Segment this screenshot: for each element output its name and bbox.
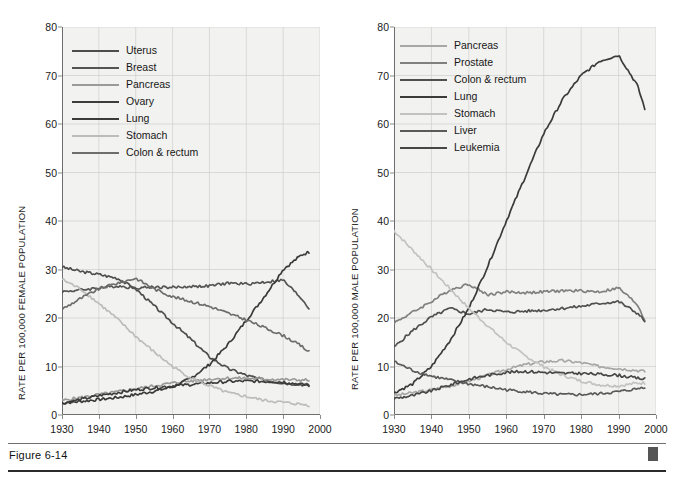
figure-caption-label: Figure 6-14 xyxy=(9,449,67,461)
y-tick-mark xyxy=(390,27,394,28)
legend-label-breast: Breast xyxy=(126,62,156,73)
y-axis-title-female: RATE PER 100,000 FEMALE POPULATION xyxy=(16,206,27,400)
legend-swatch-lung xyxy=(400,96,447,98)
legend-swatch-ovary xyxy=(72,101,119,103)
y-tick-mark xyxy=(58,221,62,222)
legend-swatch-stomach xyxy=(72,135,119,137)
legend-swatch-breast xyxy=(72,67,119,69)
legend-swatch-leukemia xyxy=(400,147,447,149)
legend-item-breast[interactable]: Breast xyxy=(72,59,198,76)
y-tick-label: 50 xyxy=(377,167,389,178)
x-tick-label: 1930 xyxy=(382,424,405,435)
y-tick-label: 0 xyxy=(383,410,389,421)
y-tick-mark xyxy=(58,75,62,76)
legend-item-lung[interactable]: Lung xyxy=(72,110,198,127)
legend-item-prostate[interactable]: Prostate xyxy=(400,54,526,71)
y-tick-label: 20 xyxy=(45,313,57,324)
x-tick-mark xyxy=(394,415,395,419)
x-tick-mark xyxy=(469,415,470,419)
legend-item-lung[interactable]: Lung xyxy=(400,88,526,105)
legend-female: UterusBreastPancreasOvaryLungStomachColo… xyxy=(72,42,198,161)
x-tick-mark xyxy=(431,415,432,419)
legend-label-stomach: Stomach xyxy=(126,130,167,141)
y-axis-title-male: RATE PER 100,000 MALE POPULATION xyxy=(349,208,360,390)
legend-swatch-prostate xyxy=(400,62,447,64)
y-tick-label: 0 xyxy=(51,410,57,421)
y-tick-mark xyxy=(58,172,62,173)
y-tick-label: 20 xyxy=(377,313,389,324)
x-tick-mark xyxy=(506,415,507,419)
y-tick-mark xyxy=(390,172,394,173)
legend-label-ovary: Ovary xyxy=(126,96,154,107)
legend-item-leukemia[interactable]: Leukemia xyxy=(400,139,526,156)
x-tick-label: 1940 xyxy=(420,424,443,435)
legend-swatch-colon-rectum xyxy=(72,152,119,154)
x-tick-label: 1950 xyxy=(457,424,480,435)
y-tick-mark xyxy=(390,366,394,367)
legend-label-lung: Lung xyxy=(126,113,149,124)
x-tick-label: 1990 xyxy=(271,424,294,435)
x-tick-label: 1970 xyxy=(198,424,221,435)
y-tick-label: 10 xyxy=(45,361,57,372)
caption-rule-bottom xyxy=(8,470,666,472)
y-tick-label: 30 xyxy=(45,264,57,275)
x-tick-label: 1960 xyxy=(495,424,518,435)
y-tick-mark xyxy=(390,124,394,125)
legend-label-colon-rectum: Colon & rectum xyxy=(126,147,198,158)
x-tick-mark xyxy=(62,415,63,419)
legend-item-pancreas[interactable]: Pancreas xyxy=(72,76,198,93)
legend-male: PancreasProstateColon & rectumLungStomac… xyxy=(400,37,526,156)
x-tick-label: 1970 xyxy=(532,424,555,435)
legend-swatch-stomach xyxy=(400,113,447,115)
y-tick-label: 10 xyxy=(377,361,389,372)
x-tick-mark xyxy=(581,415,582,419)
legend-label-lung: Lung xyxy=(454,91,477,102)
chart-panel-male: RATE PER 100,000 MALE POPULATION 0102030… xyxy=(337,0,674,440)
legend-label-stomach: Stomach xyxy=(454,108,495,119)
legend-item-liver[interactable]: Liver xyxy=(400,122,526,139)
y-tick-label: 50 xyxy=(45,167,57,178)
y-tick-label: 80 xyxy=(45,22,57,33)
x-tick-label: 1980 xyxy=(569,424,592,435)
x-tick-mark xyxy=(173,415,174,419)
x-tick-mark xyxy=(320,415,321,419)
square-marker-icon xyxy=(648,447,658,461)
legend-item-colon-rectum[interactable]: Colon & rectum xyxy=(400,71,526,88)
legend-label-uterus: Uterus xyxy=(126,45,157,56)
x-tick-label: 2000 xyxy=(644,424,667,435)
y-tick-mark xyxy=(390,221,394,222)
y-tick-label: 30 xyxy=(377,264,389,275)
legend-label-prostate: Prostate xyxy=(454,57,493,68)
y-tick-label: 60 xyxy=(377,119,389,130)
x-tick-mark xyxy=(209,415,210,419)
y-tick-mark xyxy=(58,124,62,125)
legend-item-colon-rectum[interactable]: Colon & rectum xyxy=(72,144,198,161)
y-tick-mark xyxy=(58,269,62,270)
x-tick-mark xyxy=(283,415,284,419)
y-tick-mark xyxy=(390,269,394,270)
chart-panel-female: RATE PER 100,000 FEMALE POPULATION 01020… xyxy=(0,0,337,440)
x-tick-label: 1950 xyxy=(124,424,147,435)
legend-item-stomach[interactable]: Stomach xyxy=(400,105,526,122)
x-tick-mark xyxy=(619,415,620,419)
x-tick-label: 1980 xyxy=(235,424,258,435)
legend-item-pancreas[interactable]: Pancreas xyxy=(400,37,526,54)
y-tick-mark xyxy=(58,27,62,28)
legend-item-uterus[interactable]: Uterus xyxy=(72,42,198,59)
y-tick-label: 60 xyxy=(45,119,57,130)
y-tick-label: 70 xyxy=(377,70,389,81)
legend-label-liver: Liver xyxy=(454,125,477,136)
y-tick-mark xyxy=(58,366,62,367)
legend-swatch-pancreas xyxy=(400,45,447,47)
legend-label-pancreas: Pancreas xyxy=(126,79,170,90)
y-tick-label: 40 xyxy=(45,216,57,227)
x-tick-label: 1940 xyxy=(87,424,110,435)
legend-item-ovary[interactable]: Ovary xyxy=(72,93,198,110)
y-tick-label: 70 xyxy=(45,70,57,81)
y-tick-label: 40 xyxy=(377,216,389,227)
legend-swatch-liver xyxy=(400,130,447,132)
legend-label-pancreas: Pancreas xyxy=(454,40,498,51)
legend-item-stomach[interactable]: Stomach xyxy=(72,127,198,144)
legend-swatch-pancreas xyxy=(72,84,119,86)
x-tick-mark xyxy=(246,415,247,419)
